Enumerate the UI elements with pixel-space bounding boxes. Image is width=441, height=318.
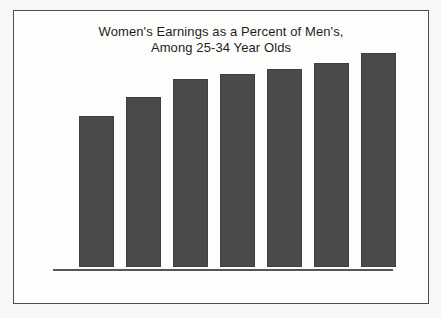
bar-2012[interactable] <box>361 53 396 267</box>
bar-2005[interactable] <box>314 63 349 267</box>
bar-1985[interactable] <box>126 97 161 267</box>
plot-area: 67% 1980 75% 1985 83% 1990 85% 1995 87% … <box>14 11 428 303</box>
x-axis-line <box>53 269 393 271</box>
bar-1990[interactable] <box>173 79 208 267</box>
bar-1980[interactable] <box>79 116 114 267</box>
bar-2000[interactable] <box>267 69 302 267</box>
chart-frame: Women's Earnings as a Percent of Men's, … <box>13 10 429 304</box>
bar-1995[interactable] <box>220 74 255 267</box>
